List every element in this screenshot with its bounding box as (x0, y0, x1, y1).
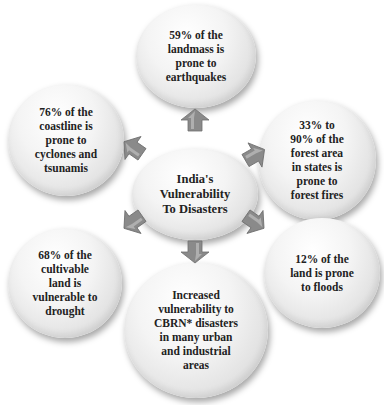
node-drought-label: 68% of the cultivable land is vulnerable… (33, 248, 98, 318)
node-floods: 12% of the land is prone to floods (264, 218, 380, 328)
node-cyclones-label: 76% of the coastline is prone to cyclone… (35, 105, 97, 175)
node-forest-fires: 33% to 90% of the forest area in states … (258, 100, 376, 220)
node-floods-label: 12% of the land is prone to floods (290, 252, 354, 294)
node-cyclones: 76% of the coastline is prone to cyclone… (8, 84, 124, 196)
node-earthquakes-label: 59% of the landmass is prone to earthqua… (166, 28, 227, 84)
node-cbrn: Increased vulnerability to CBRN* disaste… (124, 262, 268, 398)
arrow-up-icon (180, 108, 210, 132)
node-cbrn-label: Increased vulnerability to CBRN* disaste… (154, 288, 238, 372)
center-node-label: India's Vulnerability To Disasters (160, 172, 230, 217)
node-drought: 68% of the cultivable land is vulnerable… (8, 228, 122, 338)
arrow-down-icon (180, 240, 210, 264)
node-forest-fires-label: 33% to 90% of the forest area in states … (290, 118, 344, 202)
node-earthquakes: 59% of the landmass is prone to earthqua… (136, 4, 256, 108)
